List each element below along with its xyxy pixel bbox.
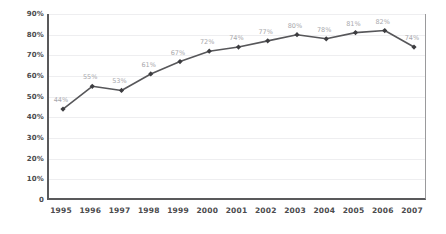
y-axis-tick-label: 90%	[4, 10, 44, 18]
y-axis-tick-label: 60%	[4, 72, 44, 80]
series-line	[63, 31, 414, 110]
data-point-marker	[236, 44, 241, 49]
data-point-marker	[353, 30, 358, 35]
data-point-marker	[265, 38, 270, 43]
data-point-marker	[294, 32, 299, 37]
y-axis-tick-label: 30%	[4, 134, 44, 142]
y-axis-tick-label: 0	[4, 196, 44, 204]
y-axis-tick-label: 20%	[4, 155, 44, 163]
y-axis-tick-label: 10%	[4, 175, 44, 183]
line-chart: 90%80%70%60%50%40%30%20%10%0 19951996199…	[0, 0, 446, 234]
data-point-marker	[177, 59, 182, 64]
y-axis-tick-label: 40%	[4, 113, 44, 121]
y-axis-tick-label: 80%	[4, 31, 44, 39]
data-point-marker	[207, 49, 212, 54]
y-axis-tick-label: 70%	[4, 51, 44, 59]
series-markers	[60, 28, 416, 112]
x-axis-tick-label: 2007	[392, 206, 432, 215]
series-svg	[49, 14, 428, 200]
y-axis-tick-label: 50%	[4, 93, 44, 101]
plot-area	[47, 14, 426, 200]
data-point-marker	[324, 36, 329, 41]
